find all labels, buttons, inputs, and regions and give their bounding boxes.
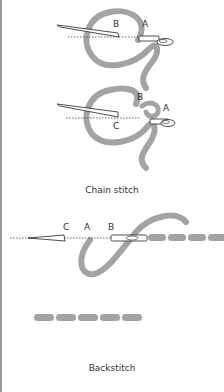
- chain-stitch-step1-illustration: [0, 0, 224, 392]
- completed-backstitches: [148, 234, 224, 241]
- point-label-c: C: [113, 122, 119, 131]
- point-label-a: A: [84, 223, 90, 232]
- thread-loop-icon: [142, 103, 158, 116]
- thread-icon: [81, 216, 186, 274]
- point-label-b: B: [137, 93, 143, 102]
- needle-icon: [28, 235, 65, 241]
- backstitch-sample-row: [34, 314, 142, 321]
- caption-backstitch: Backstitch: [0, 363, 224, 373]
- thread-icon: [86, 89, 154, 168]
- point-label-b: B: [113, 20, 119, 29]
- point-label-a: A: [163, 104, 169, 113]
- needle-eye-icon: [111, 235, 147, 241]
- point-label-a: A: [142, 20, 148, 29]
- point-label-c: C: [63, 223, 69, 232]
- point-label-b: B: [108, 223, 114, 232]
- caption-chain-stitch: Chain stitch: [0, 185, 224, 195]
